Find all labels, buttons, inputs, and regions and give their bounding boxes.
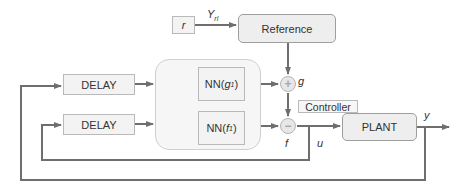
signal-label-g: g [298,75,304,87]
r-label: r [182,19,186,31]
plus-icon: + [284,77,291,91]
signal-label-yrl: Yrl [207,8,218,22]
reference-label: Reference [262,23,313,35]
sum-junction-f: − [280,118,296,134]
delay-block-top: DELAY [63,74,135,95]
delay-block-bottom: DELAY [63,114,135,135]
reference-block: Reference [238,14,336,43]
minus-icon: − [284,119,291,133]
plant-block: PLANT [342,113,417,141]
sum-junction-g: + [280,76,296,92]
signal-label-f: f [285,137,288,149]
signal-label-u: u [317,137,323,149]
signal-label-y: y [424,109,430,121]
r-input-block: r [172,16,195,34]
controller-label-box: Controller [298,100,358,113]
nn-f-block: NN(f1) [198,111,245,145]
nn-g-block: NN(g1) [198,67,245,101]
